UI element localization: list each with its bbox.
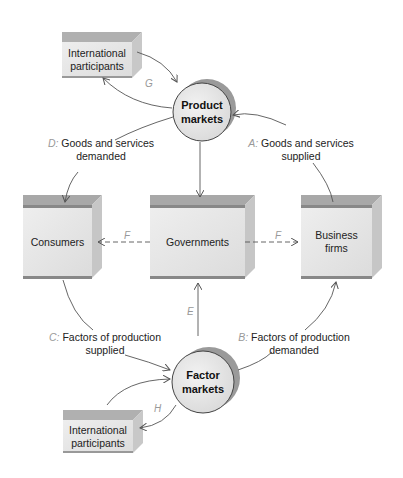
intl-top-line2: participants [70, 60, 124, 72]
factor-markets-label: Factormarkets [172, 351, 234, 413]
intl-top-line1: International [68, 47, 126, 59]
intl-participants-top-label: Internationalparticipants [62, 42, 132, 78]
flow-c-arrow-upper [63, 280, 93, 330]
factor-line2: markets [182, 383, 224, 395]
flow-d-key: D: [48, 137, 59, 149]
flow-a-line1: Goods and services [261, 137, 354, 149]
flow-f-left-letter: F [124, 230, 130, 241]
intl-participants-bottom-label: Internationalparticipants [63, 420, 133, 453]
flow-g-in-arrow [137, 52, 177, 82]
governments-label: Governments [150, 208, 245, 276]
flow-f-right-letter: F [275, 230, 281, 241]
flow-d-label: D: Goods and servicesdemanded [36, 137, 166, 163]
flow-c-label: C: Factors of productionsupplied [40, 331, 170, 357]
flow-b-key: B: [238, 331, 248, 343]
flow-c-line1: Factors of production [62, 331, 161, 343]
flow-h-letter: H [154, 403, 161, 414]
business-firms-label: Businessfirms [301, 208, 372, 276]
flow-g-letter: G [145, 78, 153, 89]
flow-b-line1: Factors of production [251, 331, 350, 343]
flow-e-letter: E [187, 306, 194, 317]
flow-a-label: A: Goods and servicessupplied [236, 137, 366, 163]
factor-line1: Factor [186, 369, 220, 381]
flow-h-in-arrow [107, 379, 170, 405]
business-line2: firms [325, 242, 348, 254]
flow-a-line2: supplied [281, 150, 320, 162]
product-line2: markets [181, 113, 223, 125]
intl-bottom-line2: participants [71, 437, 125, 449]
consumers-label: Consumers [23, 208, 92, 276]
flow-a-arrow-upper [233, 114, 286, 125]
flow-b-label: B: Factors of productiondemanded [234, 331, 354, 357]
flow-b-arrow-upper [305, 282, 336, 330]
product-line1: Product [181, 99, 223, 111]
flow-b-line2: demanded [269, 344, 319, 356]
flow-d-line2: demanded [76, 150, 126, 162]
flow-c-line2: supplied [85, 344, 124, 356]
flow-a-key: A: [248, 137, 258, 149]
flow-g-out-arrow [103, 78, 172, 108]
flow-c-key: C: [49, 331, 60, 343]
product-markets-label: Productmarkets [173, 83, 231, 141]
flow-c-arrow-lower [125, 355, 170, 370]
intl-bottom-line1: International [69, 424, 127, 436]
flow-d-line1: Goods and services [61, 137, 154, 149]
business-line1: Business [315, 229, 358, 241]
